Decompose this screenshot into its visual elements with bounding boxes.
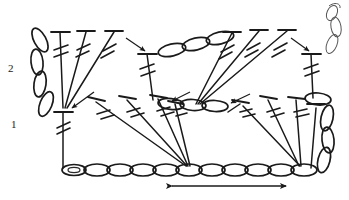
row2-valley-right: [302, 54, 321, 98]
turning-chain-left: [29, 26, 57, 119]
crochet-chart-container: 2 1: [0, 0, 349, 200]
yarn-tail-top-right: [324, 4, 343, 56]
arrow-into-row2-valley-right: [291, 38, 309, 51]
row1-fan-left: [88, 95, 190, 166]
row1-anchor-left: [54, 112, 73, 168]
chain-arc-upper-middle: [157, 29, 235, 59]
row-label-1: 1: [11, 118, 17, 130]
row2-valley-left: [138, 54, 157, 100]
row-label-2: 2: [8, 62, 14, 74]
crochet-chart-svg: 2 1: [0, 0, 349, 200]
row2-fan-right: [196, 30, 296, 104]
chain-arc-row1-middle: [157, 97, 228, 112]
row1-fan-right: [228, 96, 325, 168]
arrow-into-row2-valley-left: [126, 38, 145, 51]
